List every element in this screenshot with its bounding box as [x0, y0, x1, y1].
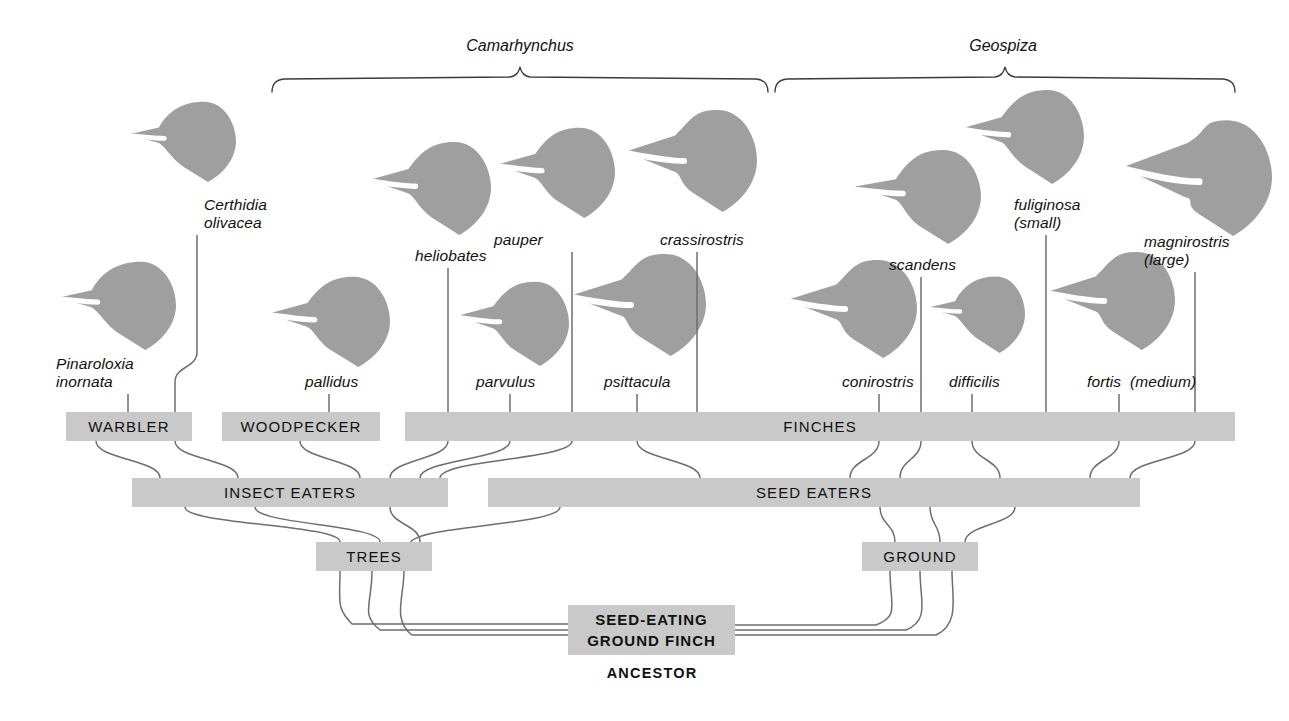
category-box-label: SEED EATERS — [756, 484, 872, 501]
category-box-trees[interactable]: TREES — [316, 542, 432, 571]
species-label-pinaroloxia: Pinaroloxia inornata — [56, 355, 134, 391]
connector — [368, 571, 568, 630]
category-box-seed-eating-ground-finch[interactable]: SEED-EATINGGROUND FINCH — [568, 605, 735, 655]
ancestor-caption: ANCESTOR — [607, 665, 698, 681]
species-label-parvulus: parvulus — [476, 373, 535, 391]
category-box-finches[interactable]: FINCHES — [405, 412, 1235, 441]
genus-brackets — [272, 67, 1235, 92]
bird-head-scandens — [855, 150, 981, 244]
connector — [1130, 441, 1195, 478]
species-label-fuliginosa: fuliginosa (small) — [1014, 196, 1081, 232]
category-box-label: TREES — [346, 548, 402, 565]
species-label-difficilis: difficilis — [949, 373, 1000, 391]
connector — [390, 507, 420, 542]
connector — [965, 507, 1015, 542]
bird-head-pinaroloxia — [58, 262, 176, 350]
genus-bracket-geospiza — [775, 67, 1235, 92]
connector — [255, 507, 380, 542]
bird-head-parvulus — [457, 282, 569, 366]
connector — [735, 571, 922, 630]
genus-label-geospiza: Geospiza — [969, 37, 1037, 55]
connector — [390, 441, 448, 478]
connector — [930, 507, 940, 542]
species-label-psittacula: psittacula — [604, 373, 670, 391]
bird-head-difficilis — [927, 277, 1025, 353]
connector — [420, 441, 510, 478]
species-label-scandens: scandens — [889, 256, 956, 274]
category-box-label: FINCHES — [783, 418, 857, 435]
bird-head-fuliginosa — [962, 90, 1084, 184]
connector — [637, 441, 700, 478]
connector — [400, 571, 568, 635]
species-label-pauper: pauper — [494, 231, 543, 249]
bird-head-pallidus — [268, 277, 390, 367]
species-label-fortismedium: fortis (medium) — [1087, 373, 1196, 391]
ancestor-line-1: SEED-EATING — [595, 609, 707, 630]
species-label-heliobates: heliobates — [415, 247, 487, 265]
connector — [300, 441, 360, 478]
connector — [96, 441, 160, 478]
category-box-ground[interactable]: GROUND — [862, 542, 978, 571]
genus-bracket-camarhynchus — [272, 67, 768, 92]
bird-head-certhidia — [128, 102, 236, 182]
bird-head-crassirostris — [625, 110, 757, 212]
category-box-seed-eaters[interactable]: SEED EATERS — [488, 478, 1140, 507]
category-box-label: WARBLER — [88, 418, 169, 435]
connector — [900, 441, 921, 478]
category-box-label: GROUND — [883, 548, 956, 565]
species-label-crassirostris: crassirostris — [660, 231, 744, 249]
connector — [972, 441, 1000, 478]
connector — [340, 571, 568, 624]
species-label-magnirostris: magnirostris (large) — [1144, 233, 1230, 269]
bird-head-heliobates — [369, 142, 491, 235]
category-box-woodpecker[interactable]: WOODPECKER — [222, 412, 380, 441]
connector — [850, 441, 879, 478]
species-label-certhidia: Certhidia olivacea — [204, 196, 267, 232]
connector — [175, 441, 238, 478]
species-label-pallidus: pallidus — [305, 373, 358, 391]
connector — [880, 507, 895, 542]
connector — [735, 571, 892, 625]
finch-radiation-diagram: Certhidia olivaceaPinaroloxia inornatapa… — [0, 0, 1289, 721]
bird-head-conirostris — [787, 260, 917, 358]
category-box-label: INSECT EATERS — [224, 484, 356, 501]
connector — [1090, 441, 1119, 478]
species-label-conirostris: conirostris — [842, 373, 914, 391]
connector — [410, 507, 560, 544]
ancestor-line-2: GROUND FINCH — [587, 630, 716, 651]
bird-head-psittacula — [570, 254, 706, 356]
bird-head-magnirostris — [1122, 120, 1272, 236]
genus-label-camarhynchus: Camarhynchus — [466, 37, 574, 55]
bird-head-pauper — [497, 128, 615, 218]
category-box-label: WOODPECKER — [240, 418, 361, 435]
category-box-warbler[interactable]: WARBLER — [66, 412, 192, 441]
category-box-insect-eaters[interactable]: INSECT EATERS — [132, 478, 448, 507]
